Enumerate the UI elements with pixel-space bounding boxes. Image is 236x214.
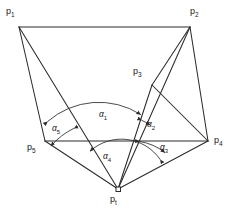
angle-label-alpha-3: α3 [160,143,168,154]
point-label-p2: p2 [190,7,199,18]
point-label-p4: p4 [214,136,223,147]
edge-p2-p4 [190,27,208,141]
edge-p5-p1 [19,27,45,141]
point-label-pt: pt [110,195,117,206]
point-label-p5: p5 [27,143,36,154]
point-label-p3: p3 [133,67,142,78]
arc-alpha-4 [90,139,160,160]
angle-label-alpha-4: α4 [103,152,111,163]
edge-p2-p3 [152,27,190,85]
diagram-canvas [0,0,236,214]
angle-label-alpha-1: α1 [99,110,107,121]
angle-label-alpha-5: α5 [52,124,60,135]
arc-alpha-1 [48,102,141,121]
angle-label-alpha-2: α2 [147,120,155,131]
ray-pt-p5 [45,141,118,189]
angle-observation-diagram: p1 p2 p3 p4 p5 pt α1 α2 α3 α4 α5 [0,0,236,214]
point-label-p1: p1 [6,7,15,18]
viewpoint-square-icon [116,187,121,192]
